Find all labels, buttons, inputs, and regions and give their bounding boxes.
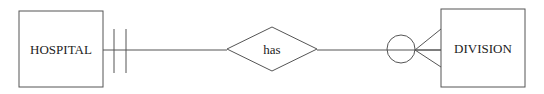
crows-foot-upper — [415, 29, 441, 50]
zero-or-many-marker — [387, 29, 441, 67]
relationship-has-label: has — [263, 42, 280, 57]
er-diagram: HOSPITAL has DIVISION — [0, 0, 544, 94]
entity-division[interactable]: DIVISION — [441, 9, 525, 87]
entity-division-label: DIVISION — [454, 41, 512, 56]
entity-hospital[interactable]: HOSPITAL — [19, 11, 103, 87]
crows-foot-lower — [415, 50, 441, 67]
entity-hospital-label: HOSPITAL — [30, 42, 92, 57]
one-and-only-one-marker — [114, 29, 126, 73]
relationship-has[interactable]: has — [227, 27, 317, 71]
optional-circle-icon — [387, 35, 415, 63]
